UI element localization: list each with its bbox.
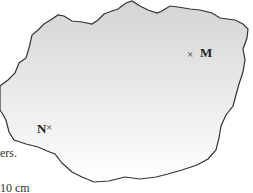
scale-text-fragment: 10 cm [0,181,30,193]
region-outline [0,1,248,182]
point-m-marker: × [187,48,193,60]
point-n-marker: × [46,121,52,133]
point-m-label: M [200,45,212,61]
region-diagram [0,0,253,193]
point-n-label: N [37,121,46,137]
clipped-text-fragment: ers. [0,146,17,161]
